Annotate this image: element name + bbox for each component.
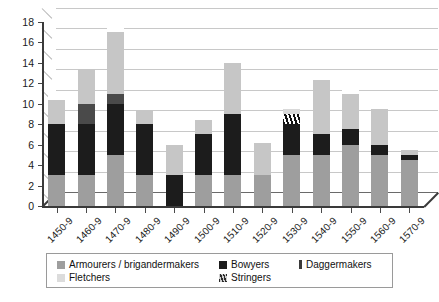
x-axis-tick-mark (145, 208, 146, 213)
bar-stack (166, 0, 183, 206)
x-axis-tick-mark (321, 208, 322, 213)
x-axis-tick-mark (292, 208, 293, 213)
bar-top-face (371, 104, 388, 109)
bar-segment (48, 100, 65, 125)
bar-segment (401, 155, 418, 160)
y-axis-tick-label: 14 (4, 57, 34, 69)
y-axis-tick-label: 18 (4, 16, 34, 28)
bar-segment (107, 104, 124, 155)
legend-swatch (57, 274, 65, 282)
bar-top-face (283, 109, 300, 114)
bar-segment (371, 109, 388, 145)
bar-segment (107, 155, 124, 206)
x-axis-tick-mark (409, 208, 410, 213)
legend-item: Armourers / brigandermakers (57, 259, 199, 270)
bar-segment (107, 32, 124, 93)
bar-segment (371, 155, 388, 206)
bar-stack (78, 0, 95, 206)
legend-label: Fletchers (69, 272, 110, 283)
bar-top-face (313, 75, 330, 80)
bar-stack (224, 0, 241, 206)
y-axis-tick-label: 0 (4, 200, 34, 212)
bar-segment (136, 124, 153, 175)
legend-label: Armourers / brigandermakers (69, 259, 199, 270)
bar-segment (283, 124, 300, 155)
x-axis-tick-mark (262, 208, 263, 213)
y-axis-tick-label: 4 (4, 159, 34, 171)
bar-segment (401, 160, 418, 206)
bar-stack (371, 0, 388, 206)
bar-segment (78, 69, 95, 104)
bar-top-face (107, 27, 124, 32)
x-axis-tick-mark (351, 208, 352, 213)
y-axis-tick-label: 8 (4, 118, 34, 130)
y-axis-tick-label: 16 (4, 36, 34, 48)
bar-segment (224, 114, 241, 175)
x-axis-tick-mark (174, 208, 175, 213)
legend-label: Stringers (231, 272, 271, 283)
bar-segment (283, 155, 300, 206)
bar-segment (195, 134, 212, 175)
y-axis-line (42, 22, 44, 206)
x-axis-tick-mark (204, 208, 205, 213)
bar-segment (136, 110, 153, 124)
bar-top-face (254, 138, 271, 143)
bar-segment (224, 63, 241, 114)
bar-chart: 0246810121416181450-91460-91470-91480-91… (0, 0, 439, 248)
bar-segment (136, 175, 153, 206)
bar-segment (166, 175, 183, 206)
x-axis-tick-mark (380, 208, 381, 213)
y-axis-tick-label: 12 (4, 77, 34, 89)
x-axis-tick-mark (233, 208, 234, 213)
bar-segment (254, 175, 271, 206)
legend-item: Stringers (219, 272, 271, 283)
bar-segment (401, 150, 418, 155)
bar-segment (313, 80, 330, 134)
bar-stack (283, 0, 300, 206)
x-axis-tick-mark (86, 208, 87, 213)
bar-top-face (136, 105, 153, 110)
x-axis-tick-mark (57, 208, 58, 213)
axis-depth-edge-right (423, 192, 438, 207)
legend-label: Daggermakers (306, 259, 372, 270)
bar-segment (195, 120, 212, 134)
bar-top-face (401, 145, 418, 150)
legend-swatch (57, 261, 65, 269)
bar-stack (401, 0, 418, 206)
bar-stack (48, 0, 65, 206)
bar-segment (78, 124, 95, 175)
bar-segment (254, 143, 271, 176)
legend-item: Fletchers (57, 272, 110, 283)
bar-stack (254, 0, 271, 206)
legend-item: Daggermakers (299, 259, 372, 270)
bar-top-face (48, 95, 65, 100)
bar-segment (224, 175, 241, 206)
legend-swatch (219, 261, 227, 269)
bar-top-face (195, 115, 212, 120)
bar-segment (78, 175, 95, 206)
bar-segment (195, 175, 212, 206)
bar-segment (283, 114, 300, 124)
bar-stack (342, 0, 359, 206)
bar-top-face (78, 64, 95, 69)
y-axis-tick-label: 2 (4, 180, 34, 192)
bar-top-face (224, 58, 241, 63)
bar-segment (48, 175, 65, 206)
chart-legend: Armourers / brigandermakersBowyersDagger… (46, 253, 393, 288)
y-axis-tick-label: 10 (4, 98, 34, 110)
legend-swatch (299, 260, 302, 269)
bar-stack (107, 0, 124, 206)
y-axis-tick-label: 6 (4, 139, 34, 151)
bar-segment (342, 129, 359, 144)
bar-segment (48, 124, 65, 175)
bar-stack (136, 0, 153, 206)
x-axis-tick-mark (115, 208, 116, 213)
bar-top-face (166, 140, 183, 145)
legend-item: Bowyers (219, 259, 269, 270)
bar-stack (195, 0, 212, 206)
bar-segment (78, 104, 95, 124)
bar-segment (166, 145, 183, 176)
bar-segment (313, 134, 330, 154)
bar-stack (313, 0, 330, 206)
legend-swatch (219, 274, 227, 282)
